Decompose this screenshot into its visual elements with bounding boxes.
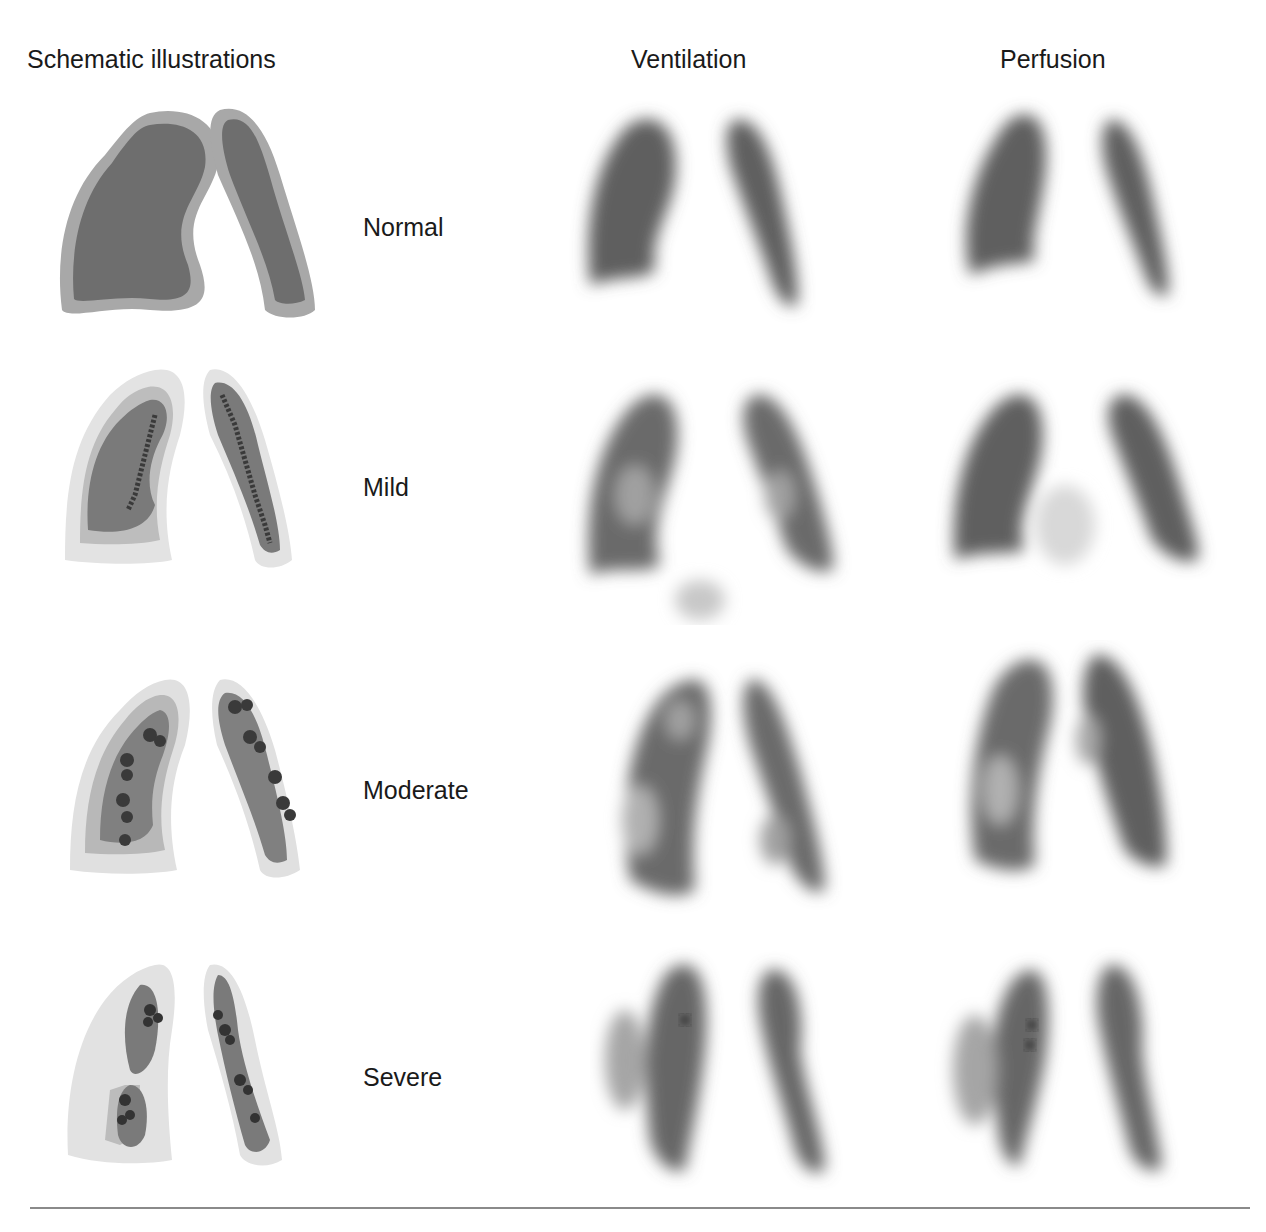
schematic-normal bbox=[50, 105, 330, 325]
bottom-divider bbox=[30, 1207, 1250, 1209]
row-label-normal: Normal bbox=[363, 210, 444, 244]
header-schematic-illustrations: Schematic illustrations bbox=[27, 42, 276, 76]
perfusion-scan-normal bbox=[930, 95, 1220, 335]
ventilation-scan-severe bbox=[590, 940, 870, 1190]
ventilation-scan-moderate bbox=[580, 660, 870, 920]
row-label-mild: Mild bbox=[363, 470, 409, 504]
schematic-severe bbox=[60, 960, 330, 1170]
perfusion-scan-severe bbox=[930, 940, 1220, 1190]
perfusion-scan-moderate bbox=[940, 640, 1230, 910]
ventilation-scan-normal bbox=[565, 95, 855, 335]
schematic-moderate bbox=[65, 675, 330, 880]
perfusion-scan-mild bbox=[930, 375, 1230, 625]
header-ventilation: Ventilation bbox=[631, 42, 746, 76]
row-label-severe: Severe bbox=[363, 1060, 442, 1094]
row-label-moderate: Moderate bbox=[363, 773, 469, 807]
schematic-mild bbox=[60, 365, 330, 570]
ventilation-scan-mild bbox=[565, 375, 865, 625]
header-perfusion: Perfusion bbox=[1000, 42, 1106, 76]
